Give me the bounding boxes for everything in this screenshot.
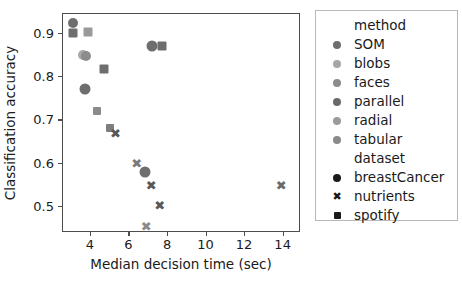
cross-marker-glyph: ✖ [276,179,287,192]
data-point [157,41,166,50]
legend-marker-spacer [320,149,354,168]
legend-group-title-row: dataset [320,149,453,168]
legend-group-title-row: method [320,16,453,35]
square-marker-shape [334,212,341,219]
circle-marker-icon [320,35,354,54]
y-axis-label-text: Classification accuracy [2,45,18,200]
legend-item-nutrients[interactable]: ✖nutrients [320,187,453,206]
x-tick-mark [244,232,245,236]
y-tick-mark [58,76,62,77]
cross-marker-glyph: ✖ [110,127,121,140]
y-tick-mark [58,206,62,207]
data-point [79,83,90,94]
legend-group-title: dataset [354,152,405,166]
x-tick-mark [90,232,91,236]
cross-marker-glyph: ✖ [332,191,341,202]
legend-item-parallel[interactable]: parallel [320,92,453,111]
circle-marker-icon [320,130,354,149]
legend-item-label: nutrients [354,190,415,204]
data-point [81,51,91,61]
y-tick-label: 0.7 [33,112,54,127]
circle-marker-shape [333,98,341,106]
data-point: ✖ [155,201,165,211]
square-marker-icon [320,206,354,225]
data-point [84,28,93,37]
circle-marker-icon [320,54,354,73]
circle-marker-icon [320,73,354,92]
y-tick-mark [58,33,62,34]
legend-item-tabular[interactable]: tabular [320,130,453,149]
cross-marker-glyph: ✖ [141,220,152,233]
circle-marker-shape [333,41,341,49]
circle-marker-icon [320,92,354,111]
legend-item-blobs[interactable]: blobs [320,54,453,73]
legend-item-spotify[interactable]: spotify [320,206,453,225]
data-point: ✖ [276,180,286,190]
data-point [146,40,157,51]
data-point: ✖ [110,129,120,139]
x-tick-label: 4 [86,237,94,252]
circle-marker-shape [333,79,341,87]
data-point: ✖ [141,222,151,232]
data-point: ✖ [132,158,142,168]
x-tick-label: 6 [124,237,132,252]
x-tick-label: 14 [274,237,291,252]
circle-marker-shape [333,117,341,125]
legend-item-som[interactable]: SOM [320,35,453,54]
legend-item-faces[interactable]: faces [320,73,453,92]
circle-marker-shape [333,136,341,144]
chart-legend: methodSOMblobsfacesparallelradialtabular… [315,10,458,221]
x-tick-mark [283,232,284,236]
cross-marker-glyph: ✖ [146,179,157,192]
circle-marker-icon [320,111,354,130]
cross-marker-icon: ✖ [320,187,354,206]
legend-item-label: radial [354,114,392,128]
legend-item-label: blobs [354,57,390,71]
scatter-chart-figure: ✖✖✖✖✖✖ 4681012140.50.60.70.80.9 Median d… [0,0,462,283]
legend-marker-spacer [320,16,354,35]
y-tick-mark [58,119,62,120]
data-point [93,107,101,115]
y-tick-label: 0.9 [33,25,54,40]
x-tick-label: 10 [197,237,214,252]
x-tick-mark [128,232,129,236]
data-point [99,65,108,74]
y-tick-mark [58,163,62,164]
x-axis-label: Median decision time (sec) [62,256,300,272]
circle-marker-shape [333,174,341,182]
legend-item-label: SOM [354,38,385,52]
cross-marker-glyph: ✖ [131,157,142,170]
y-tick-label: 0.5 [33,198,54,213]
data-point [68,28,77,37]
circle-marker-shape [333,60,341,68]
legend-item-label: breastCancer [354,171,444,185]
cross-marker-glyph: ✖ [154,199,165,212]
data-point: ✖ [146,180,156,190]
legend-item-breastcancer[interactable]: breastCancer [320,168,453,187]
legend-item-radial[interactable]: radial [320,111,453,130]
x-tick-label: 8 [163,237,171,252]
legend-item-label: spotify [354,209,399,223]
data-point [68,18,78,28]
legend-item-label: faces [354,76,390,90]
data-point [78,50,88,60]
x-tick-label: 12 [236,237,253,252]
y-tick-label: 0.6 [33,155,54,170]
x-tick-mark [206,232,207,236]
plot-data-area: ✖✖✖✖✖✖ [62,13,300,232]
x-tick-mark [167,232,168,236]
y-tick-label: 0.8 [33,68,54,83]
data-point [140,167,151,178]
data-point [106,124,114,132]
y-axis-label: Classification accuracy [2,13,18,232]
circle-marker-icon [320,168,354,187]
legend-item-label: tabular [354,133,402,147]
legend-item-label: parallel [354,95,404,109]
legend-group-title: method [354,19,406,33]
